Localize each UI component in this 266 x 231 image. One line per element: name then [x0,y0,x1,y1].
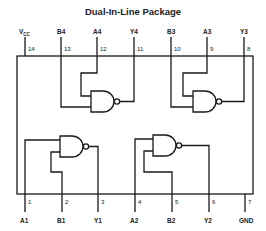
pin-9-label: A3 [203,28,212,35]
pin-12-label: A4 [93,28,102,35]
pin-4-number: 4 [138,199,142,205]
pin-5-label: B2 [167,217,176,224]
pin-5-number: 5 [175,199,179,205]
pin-7-number: 7 [248,199,252,205]
pin-6-number: 6 [212,199,216,205]
dip-package-diagram: VCC B4 A4 Y4 B3 A3 Y3 14 13 12 11 10 9 8… [0,0,266,231]
pin-11-number: 11 [137,46,144,52]
pin-2-number: 2 [65,199,69,205]
pin-11-label: Y4 [130,28,138,35]
pin-10-label: B3 [167,28,176,35]
pin-14-label: VCC [19,28,31,37]
pin-13-label: B4 [57,28,66,35]
pin-3-label: Y1 [94,217,102,224]
pin-1-number: 1 [28,199,32,205]
nand-gate-2 [135,135,209,194]
pin-9-number: 9 [210,46,214,52]
pin-2-label: B1 [57,217,66,224]
pin-3-number: 3 [101,199,105,205]
nand-gate-1 [25,136,98,194]
nand-gate-3 [171,56,244,112]
pin-10-number: 10 [174,46,181,52]
pin-8-number: 8 [247,46,251,52]
pin-12-number: 12 [100,46,107,52]
pin-4-label: A2 [130,217,139,224]
nand-gate-4 [61,56,134,112]
pin-14-number: 14 [28,46,35,52]
pin-8-label: Y3 [240,28,248,35]
pin-13-number: 13 [64,46,71,52]
pin-6-label: Y2 [204,217,212,224]
pin-1-label: A1 [20,217,29,224]
pin-7-label: GND [239,217,254,224]
